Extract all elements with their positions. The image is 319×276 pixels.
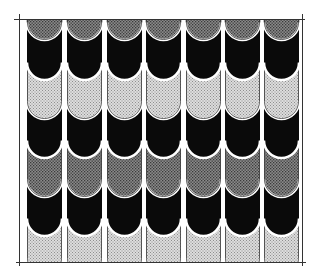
shingle-pattern-illustration (0, 0, 319, 276)
tile-grid (27, 0, 299, 276)
